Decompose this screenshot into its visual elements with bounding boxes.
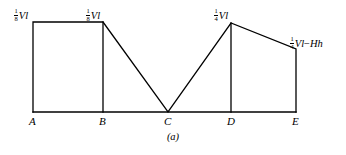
value-label-b: 1 8 Vl bbox=[86, 8, 100, 22]
value-symbol: Vl bbox=[19, 10, 28, 21]
value-symbol: Vl bbox=[91, 10, 100, 21]
value-symbol: Vl bbox=[295, 38, 304, 49]
node-label-e: E bbox=[292, 116, 299, 127]
node-label-d: D bbox=[227, 116, 235, 127]
node-label-b: B bbox=[99, 116, 106, 127]
value-label-e: 1 4 Vl−Hh bbox=[290, 36, 323, 50]
diagram-lines bbox=[33, 22, 296, 112]
value-label-a: 1 8 Vl bbox=[14, 8, 28, 22]
value-extra-symbol: Hh bbox=[310, 38, 323, 49]
moment-outline bbox=[33, 22, 296, 112]
value-label-d: 1 4 Vl bbox=[214, 8, 228, 22]
node-label-c: C bbox=[164, 116, 171, 127]
bending-moment-figure: 1 8 Vl 1 8 Vl 1 4 Vl 1 4 Vl−Hh A B C D E… bbox=[0, 0, 346, 155]
node-label-a: A bbox=[29, 116, 36, 127]
value-symbol: Vl bbox=[219, 10, 228, 21]
figure-caption: (a) bbox=[0, 131, 346, 142]
